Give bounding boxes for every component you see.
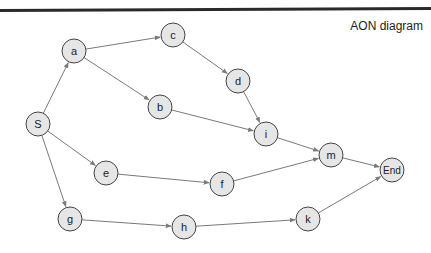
node-label: a: [71, 45, 78, 57]
node-e: e: [94, 161, 118, 185]
node-label: e: [103, 167, 109, 179]
edge-d-i: [244, 92, 260, 123]
node-label: End: [383, 165, 401, 176]
edge-g-h: [82, 220, 171, 226]
node-a: a: [62, 39, 86, 63]
node-f: f: [210, 172, 234, 196]
node-d: d: [226, 69, 250, 93]
edge-a-b: [84, 58, 149, 100]
node-label: b: [157, 101, 163, 113]
node-h: h: [172, 215, 196, 239]
node-label: S: [34, 118, 41, 130]
node-label: d: [235, 75, 241, 87]
node-b: b: [148, 95, 172, 119]
edge-a-c: [86, 37, 160, 49]
edge-k-End: [318, 177, 380, 213]
node-i: i: [254, 122, 278, 146]
node-label: m: [326, 149, 335, 161]
node-End: End: [380, 158, 404, 182]
node-label: i: [265, 128, 267, 140]
edge-c-d: [183, 42, 228, 74]
edge-f-m: [234, 158, 319, 181]
node-S: S: [26, 112, 50, 136]
node-k: k: [296, 207, 320, 231]
node-label: g: [67, 213, 73, 225]
edge-e-f: [118, 174, 209, 183]
edge-S-e: [48, 131, 96, 165]
aon-diagram: SabcdefghikmEnd: [0, 0, 431, 253]
node-g: g: [58, 207, 82, 231]
node-label: h: [181, 221, 187, 233]
edge-b-i: [172, 110, 254, 131]
edge-S-g: [42, 135, 66, 206]
edge-m-End: [343, 158, 380, 167]
edge-h-k: [196, 220, 295, 226]
node-label: k: [305, 213, 311, 225]
node-label: c: [170, 29, 176, 41]
node-m: m: [319, 143, 343, 167]
edge-S-a: [43, 63, 68, 114]
edge-i-m: [277, 138, 318, 151]
node-c: c: [161, 23, 185, 47]
